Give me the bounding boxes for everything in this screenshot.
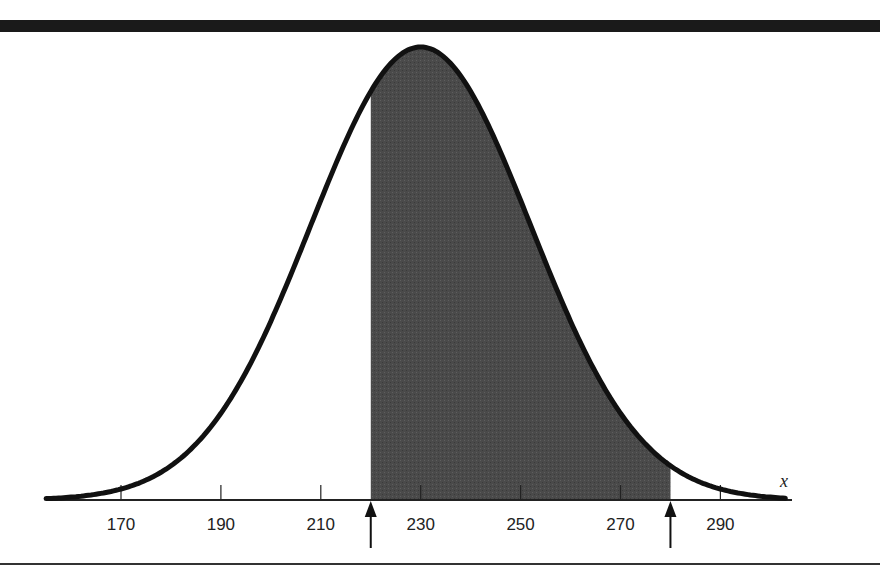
x-tick-label: 290 [706, 515, 734, 534]
shaded-area [371, 47, 671, 500]
x-tick-label: 250 [506, 515, 534, 534]
x-tick-label: 190 [207, 515, 235, 534]
arrow-up-icon [365, 501, 377, 517]
x-tick-label: 270 [606, 515, 634, 534]
normal-curve-chart: 170190210230250270290 x [0, 0, 889, 577]
x-axis-variable-label: x [779, 471, 788, 491]
x-tick-label: 210 [307, 515, 335, 534]
x-tick-label: 170 [107, 515, 135, 534]
arrow-up-icon [664, 501, 676, 517]
x-tick-label: 230 [407, 515, 435, 534]
bottom-rule [0, 563, 880, 565]
